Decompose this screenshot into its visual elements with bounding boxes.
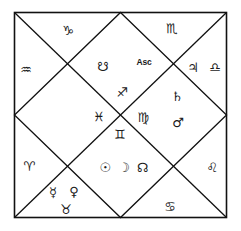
sign-aries-glyph: ♈ xyxy=(23,160,35,173)
ascendant-label: Asc xyxy=(137,58,152,67)
sign-libra-glyph: ♎ xyxy=(209,61,221,74)
planet-saturn-glyph: ♄ xyxy=(171,90,183,103)
vedic-birth-chart: ♑ ♏ ♒ ☋ Asc ♃ ♎ ♐ ♄ ♓ ♍ ♂ ♊ ♈ ☉ ☽ ☊ ♌ ☿ … xyxy=(0,0,241,231)
sign-scorpio-glyph: ♏ xyxy=(166,22,178,35)
sign-capricorn-glyph: ♑ xyxy=(62,24,74,37)
planet-venus-glyph: ♀ xyxy=(69,185,79,198)
planet-jupiter-glyph: ♃ xyxy=(187,61,199,74)
sign-gemini-glyph: ♊ xyxy=(114,128,126,141)
sign-pisces-glyph: ♓ xyxy=(93,110,105,123)
planet-mars-glyph: ♂ xyxy=(172,116,184,129)
sign-sagittarius-glyph: ♐ xyxy=(116,86,128,99)
planet-rahu-glyph: ☊ xyxy=(137,161,149,174)
sign-aquarius-glyph: ♒ xyxy=(20,63,32,76)
sign-taurus-glyph: ♉ xyxy=(60,203,72,216)
chart-lines xyxy=(0,0,241,231)
planet-ketu-glyph: ☋ xyxy=(97,60,109,73)
planet-sun-glyph: ☉ xyxy=(100,161,112,174)
planet-moon-glyph: ☽ xyxy=(118,161,130,174)
sign-virgo-glyph: ♍ xyxy=(137,111,149,124)
house-7-planet-group: ☉ ☽ ☊ xyxy=(100,161,149,174)
sign-leo-glyph: ♌ xyxy=(206,161,218,174)
planet-mercury-glyph: ☿ xyxy=(49,186,57,199)
sign-cancer-glyph: ♋ xyxy=(164,200,176,213)
